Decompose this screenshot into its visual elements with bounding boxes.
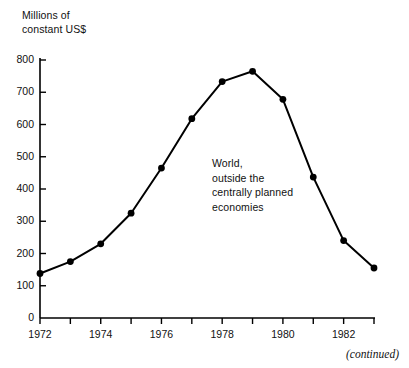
data-point-marker [310, 174, 317, 181]
chart-figure: Millions of constant US$ World, outside … [0, 0, 409, 368]
data-point-marker [280, 96, 287, 103]
y-axis-tick-label: 600 [6, 118, 34, 130]
y-axis-tick-label: 0 [6, 311, 34, 323]
data-point-marker [340, 237, 347, 244]
x-axis-tick-label: 1980 [263, 328, 303, 340]
data-point-marker [97, 240, 104, 247]
data-point-marker [249, 68, 256, 75]
y-axis-tick-label: 800 [6, 53, 34, 65]
data-point-marker [219, 78, 226, 85]
data-point-marker [371, 265, 378, 272]
x-axis-tick-label: 1974 [81, 328, 121, 340]
y-axis-tick-label: 100 [6, 279, 34, 291]
line-chart-svg [0, 0, 409, 368]
y-axis-tick-label: 700 [6, 85, 34, 97]
x-axis-tick-label: 1972 [20, 328, 60, 340]
plot-area [0, 0, 409, 368]
data-series-line [40, 71, 374, 273]
y-axis-tick-label: 300 [6, 214, 34, 226]
x-axis-tick-label: 1978 [202, 328, 242, 340]
x-axis-tick-label: 1976 [141, 328, 181, 340]
y-axis-tick-label: 400 [6, 182, 34, 194]
data-point-marker [188, 115, 195, 122]
data-point-marker [67, 258, 74, 265]
x-axis-tick-label: 1982 [324, 328, 364, 340]
data-point-marker [158, 165, 165, 172]
data-point-marker [37, 270, 44, 277]
y-axis-tick-label: 500 [6, 150, 34, 162]
y-axis-tick-label: 200 [6, 247, 34, 259]
continued-note: (continued) [346, 348, 399, 360]
series-annotation-label: World, outside the centrally planned eco… [212, 156, 293, 214]
data-point-marker [128, 210, 135, 217]
